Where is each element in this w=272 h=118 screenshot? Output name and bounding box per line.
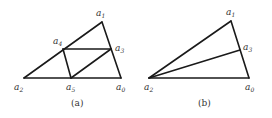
vertex-label-a0: a0 <box>245 82 254 93</box>
vertex-label-a2: a2 <box>144 82 153 93</box>
figure-a: a1 a3 a4 a2 a5 a0 (a) <box>14 8 125 108</box>
edge-a4-a5 <box>63 49 71 78</box>
edge-a5-a3 <box>71 49 111 78</box>
vertex-label-a1: a1 <box>96 8 105 19</box>
vertex-label-a3: a3 <box>243 42 252 53</box>
vertex-label-a4: a4 <box>53 36 62 47</box>
vertex-label-a5: a5 <box>66 82 75 93</box>
caption-b: (b) <box>198 98 211 108</box>
figure-b: a1 a3 a2 a0 (b) <box>144 7 254 108</box>
edge-a2-a3 <box>149 50 240 78</box>
edge-a2-a1 <box>149 21 231 78</box>
vertex-label-a1: a1 <box>226 7 235 18</box>
triangle-subdivision-diagram: a1 a3 a4 a2 a5 a0 (a) a1 a3 a2 a0 (b) <box>0 0 272 118</box>
caption-a: (a) <box>71 98 83 108</box>
vertex-label-a0: a0 <box>116 82 125 93</box>
vertex-label-a2: a2 <box>14 82 23 93</box>
vertex-label-a3: a3 <box>115 43 124 54</box>
